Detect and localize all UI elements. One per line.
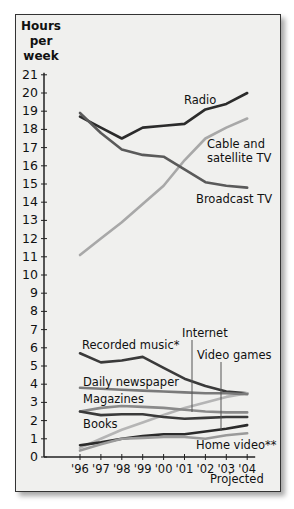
y-tick-label: 10	[22, 267, 38, 282]
y-title-line2: per	[30, 34, 53, 48]
x-tick-label: '96	[71, 462, 89, 476]
y-title-line3: week	[23, 49, 59, 63]
y-tick-label: 9	[30, 285, 38, 300]
y-tick-label: 18	[22, 121, 38, 136]
line-chart: Hours per week 0123456789101112131415161…	[0, 0, 294, 509]
y-tick-label: 11	[22, 249, 38, 264]
label-cable-2: satellite TV	[207, 151, 271, 165]
series-line-magazines	[80, 406, 247, 412]
y-tick-label: 2	[30, 413, 38, 428]
x-tick-label: '01	[176, 462, 194, 476]
x-tick-label: '99	[134, 462, 152, 476]
y-tick-label: 3	[30, 394, 38, 409]
y-tick-label: 14	[22, 194, 38, 209]
y-tick-label: 0	[30, 449, 38, 464]
y-tick-label: 15	[22, 176, 38, 191]
label-radio: Radio	[184, 93, 216, 107]
y-tick-label: 1	[30, 431, 38, 446]
y-tick-label: 16	[22, 158, 38, 173]
label-recorded-music: Recorded music*	[82, 338, 180, 352]
y-tick-label: 19	[22, 103, 38, 118]
label-broadcast: Broadcast TV	[196, 192, 272, 206]
x-tick-label: '98	[113, 462, 131, 476]
label-books: Books	[83, 417, 118, 431]
y-tick-label: 20	[22, 85, 38, 100]
label-cable-1: Cable and	[207, 137, 265, 151]
y-tick-label: 4	[30, 376, 38, 391]
x-tick-label: '97	[92, 462, 110, 476]
label-home-video: Home video**	[196, 438, 277, 452]
label-internet: Internet	[182, 326, 228, 340]
label-magazines: Magazines	[83, 392, 144, 406]
label-video-games: Video games	[197, 348, 272, 362]
x-tick-label: '00	[155, 462, 173, 476]
y-title-line1: Hours	[21, 19, 61, 33]
y-tick-label: 13	[22, 212, 38, 227]
series-line-radio	[80, 93, 247, 139]
y-tick-label: 21	[22, 67, 38, 82]
y-tick-label: 5	[30, 358, 38, 373]
label-projected: Projected	[210, 472, 264, 486]
y-tick-label: 7	[30, 322, 38, 337]
y-tick-label: 8	[30, 303, 38, 318]
y-axis-title: Hours per week	[21, 19, 61, 63]
series-labels: Radio Cable and satellite TV Broadcast T…	[82, 93, 277, 486]
y-tick-label: 6	[30, 340, 38, 355]
label-daily-newspaper: Daily newspaper	[83, 375, 179, 389]
y-tick-label: 12	[22, 231, 38, 246]
y-tick-label: 17	[22, 140, 38, 155]
